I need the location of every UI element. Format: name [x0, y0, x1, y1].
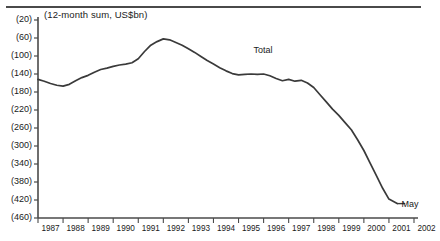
- y-tick-label-7: (300): [0, 140, 32, 150]
- series-group: [38, 39, 405, 204]
- axes-group: [34, 17, 418, 223]
- y-tick-label-6: (260): [0, 122, 32, 132]
- y-tick-label-10: (420): [0, 194, 32, 204]
- y-tick-label-0: (20): [0, 14, 32, 24]
- y-tick-label-1: (60): [0, 32, 32, 42]
- y-tick-label-8: (340): [0, 158, 32, 168]
- y-tick-label-4: (180): [0, 86, 32, 96]
- x-tick-label-2002: 2002: [412, 224, 440, 233]
- y-tick-label-9: (380): [0, 176, 32, 186]
- y-tick-label-11: (460): [0, 212, 32, 222]
- y-tick-label-3: (140): [0, 68, 32, 78]
- series-label-total: Total: [254, 45, 273, 55]
- point-label-may: May: [401, 199, 418, 209]
- y-tick-label-2: (100): [0, 50, 32, 60]
- series-line-total: [38, 39, 397, 204]
- y-tick-label-5: (220): [0, 104, 32, 114]
